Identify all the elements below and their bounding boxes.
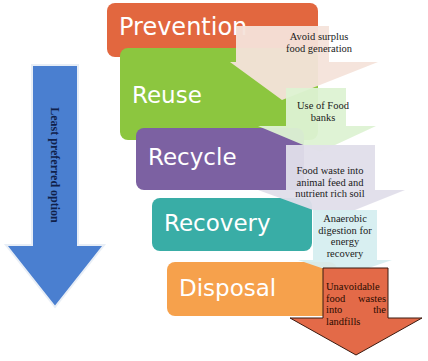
note-disposal: Unavoidable food wastes into the landfil… [326,281,386,327]
note-prevention: Avoid surplus food generation [284,31,354,54]
note-recycle: Food waste into animal feed and nutrient… [286,165,374,200]
note-recovery: Anaerobic digestion for energy recovery [314,213,376,259]
note-reuse: Use of Food banks [290,100,356,123]
